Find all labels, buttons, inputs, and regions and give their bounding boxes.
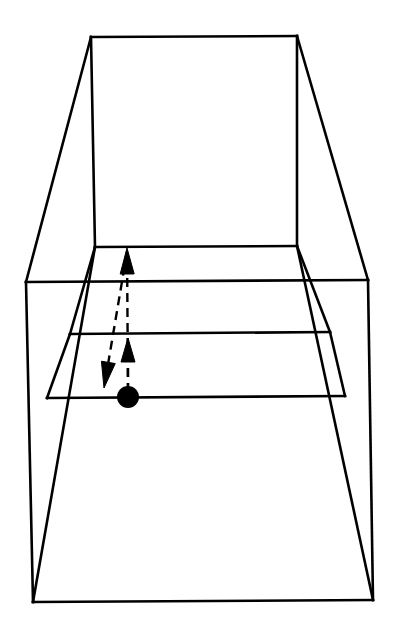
perspective-corridor-diagram <box>0 0 395 638</box>
position-marker-dot <box>117 386 139 408</box>
figure-container: Perspective corridor line drawing with m… <box>0 0 395 638</box>
far-wall-top-edge <box>91 36 297 37</box>
far-wall-bottom-edge <box>95 246 297 247</box>
marker-group <box>117 386 139 408</box>
canvas-background <box>0 0 395 638</box>
